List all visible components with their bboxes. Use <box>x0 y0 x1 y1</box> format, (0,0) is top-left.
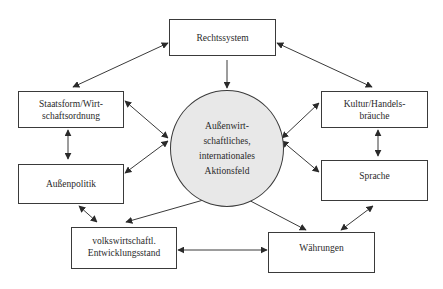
arrow-waehrungen-sprache <box>341 206 373 230</box>
arrow-rechtssystem-staatsform <box>73 43 168 87</box>
node-waehrungen: Währungen <box>268 232 375 273</box>
arrow-aussenpolitik-center <box>125 141 168 173</box>
node-volkswirtschaftl-entwicklungsstand: volkswirtschaftl. Entwicklungsstand <box>71 227 177 269</box>
node-rechtssystem: Rechtssystem <box>169 19 276 56</box>
node-staatsform-line-2: schaftsordnung <box>42 110 100 122</box>
arrow-kultur-center <box>282 103 319 138</box>
arrow-staatsform-center <box>125 101 168 138</box>
node-kultur-handelsbraeuche: Kultur/Handels- bräuche <box>321 91 428 128</box>
center-node-aussenwirtschaftliches-aktionsfeld: Außenwirt- schaftliches, internationales… <box>170 90 284 207</box>
node-staatsform-wirtschaftsordnung: Staatsform/Wirt- schaftsordnung <box>18 91 124 128</box>
arrow-sprache-center <box>282 141 319 172</box>
node-staatsform-line-1: Staatsform/Wirt- <box>39 98 103 110</box>
node-waehrungen-label: Währungen <box>299 242 343 254</box>
node-sprache: Sprache <box>321 160 428 201</box>
center-node-line-1: Außenwirt- <box>205 119 249 134</box>
node-entwicklungsstand-line-2: Entwicklungsstand <box>88 247 160 259</box>
center-node-line-4: Aktionsfeld <box>205 164 250 179</box>
center-node-line-2: schaftliches, <box>203 134 250 149</box>
node-kultur-line-1: Kultur/Handels- <box>344 98 406 110</box>
node-aussenpolitik-label: Außenpolitik <box>46 178 96 190</box>
node-rechtssystem-label: Rechtssystem <box>196 32 248 44</box>
center-node-line-3: internationales <box>199 149 255 164</box>
node-sprache-label: Sprache <box>359 170 390 182</box>
node-kultur-line-2: bräuche <box>359 110 389 122</box>
node-entwicklungsstand-line-1: volkswirtschaftl. <box>92 235 156 247</box>
arrow-rechtssystem-kultur <box>277 43 372 87</box>
node-aussenpolitik: Außenpolitik <box>18 164 124 204</box>
arrow-aussenpolitik-entwicklungsstand <box>79 206 97 222</box>
